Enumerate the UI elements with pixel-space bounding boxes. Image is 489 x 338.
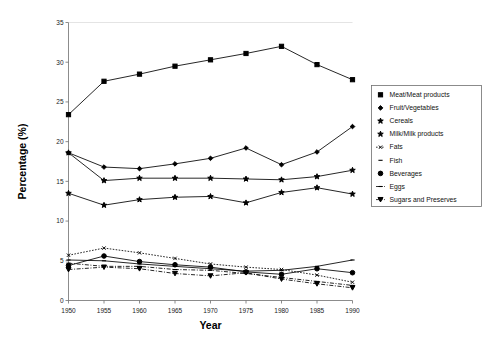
data-point-marker: [315, 282, 320, 287]
series-cereals: [66, 150, 356, 183]
data-point-marker: [244, 146, 249, 151]
legend-item-meat-meat-products[interactable]: Meat/Meat products: [378, 91, 450, 99]
data-point-marker: [314, 185, 320, 190]
series-layer: [66, 44, 356, 290]
y-tick-label: 0: [60, 297, 64, 304]
data-point-marker: [102, 79, 106, 83]
data-point-marker: [173, 64, 177, 68]
x-tick-label: 1960: [132, 307, 147, 314]
data-point-marker: [350, 191, 356, 196]
data-point-marker: [243, 200, 249, 205]
data-point-marker: [208, 58, 212, 62]
data-point-marker: [244, 51, 248, 55]
data-point-marker: [102, 254, 107, 259]
series-milk-milk-products: [66, 185, 356, 208]
chart-legend: Meat/Meat productsFruit/VegetablesCereal…: [372, 86, 482, 207]
data-point-marker: [279, 162, 284, 167]
data-point-marker: [101, 202, 107, 207]
data-point-marker: [208, 265, 213, 270]
legend-label: Milk/Milk products: [390, 130, 445, 138]
legend-label: Meat/Meat products: [390, 91, 451, 99]
data-point-marker: [279, 277, 284, 282]
legend-label: Fats: [390, 143, 404, 150]
y-tick-label: 15: [56, 178, 64, 185]
x-tick-label: 1955: [97, 307, 112, 314]
x-tick-label: 1975: [239, 307, 254, 314]
data-point-marker: [279, 177, 285, 182]
plot-axes: [69, 23, 353, 301]
legend-label: Eggs: [390, 183, 406, 191]
data-point-marker: [378, 93, 382, 97]
series-fruit-vegetables: [66, 124, 355, 171]
data-point-marker: [173, 162, 178, 167]
x-tick-label: 1980: [274, 307, 289, 314]
y-tick-label: 10: [56, 217, 64, 224]
data-point-marker: [102, 165, 107, 170]
legend-label: Beverages: [390, 170, 423, 178]
data-point-marker: [208, 175, 214, 180]
x-tick-label: 1970: [203, 307, 218, 314]
data-point-marker: [350, 167, 356, 172]
data-point-marker: [172, 175, 178, 180]
data-point-marker: [66, 267, 71, 272]
data-point-marker: [350, 270, 355, 275]
x-axis-title: Year: [199, 319, 221, 331]
data-point-marker: [350, 286, 355, 291]
data-point-marker: [315, 266, 320, 271]
data-point-marker: [279, 44, 283, 48]
data-point-marker: [279, 272, 284, 277]
data-point-marker: [350, 78, 354, 82]
data-point-marker: [378, 171, 383, 176]
data-point-marker: [244, 271, 249, 276]
series-beverages: [66, 254, 355, 277]
data-point-marker: [101, 178, 107, 183]
series-meat-meat-products: [66, 44, 354, 117]
data-point-marker: [66, 113, 70, 117]
chart-figure: 0510152025303519501955196019651970197519…: [0, 0, 489, 338]
legend-label: Cereals: [390, 117, 414, 124]
data-point-marker: [243, 176, 249, 181]
x-tick-label: 1950: [61, 307, 76, 314]
data-point-marker: [137, 175, 143, 180]
data-point-marker: [173, 262, 178, 267]
data-point-marker: [172, 194, 178, 199]
axis-labels-layer: 0510152025303519501955196019651970197519…: [16, 19, 360, 331]
data-point-marker: [314, 174, 320, 179]
data-point-marker: [137, 267, 142, 272]
y-tick-label: 20: [56, 138, 64, 145]
legend-label: Fish: [390, 157, 403, 164]
x-tick-label: 1965: [168, 307, 183, 314]
series-polyline: [69, 46, 353, 114]
data-point-marker: [208, 194, 214, 199]
data-point-marker: [279, 190, 285, 195]
y-tick-label: 25: [56, 98, 64, 105]
data-point-marker: [66, 150, 72, 155]
y-tick-label: 30: [56, 59, 64, 66]
y-axis-title: Percentage (%): [16, 124, 28, 200]
data-point-marker: [137, 259, 142, 264]
data-point-marker: [137, 197, 143, 202]
y-tick-label: 35: [56, 19, 64, 26]
series-polyline: [69, 127, 353, 169]
data-point-marker: [137, 72, 141, 76]
data-point-marker: [208, 156, 213, 161]
data-point-marker: [173, 271, 178, 276]
line-chart: 0510152025303519501955196019651970197519…: [0, 0, 489, 338]
data-point-marker: [137, 166, 142, 171]
legend-label: Sugars and Preserves: [390, 196, 458, 204]
x-tick-label: 1985: [310, 307, 325, 314]
data-point-marker: [208, 274, 213, 279]
data-point-marker: [315, 62, 319, 66]
x-tick-label: 1990: [345, 307, 360, 314]
legend-label: Fruit/Vegetables: [390, 104, 440, 112]
data-point-marker: [102, 265, 107, 270]
data-point-marker: [66, 190, 72, 195]
y-tick-label: 5: [60, 257, 64, 264]
